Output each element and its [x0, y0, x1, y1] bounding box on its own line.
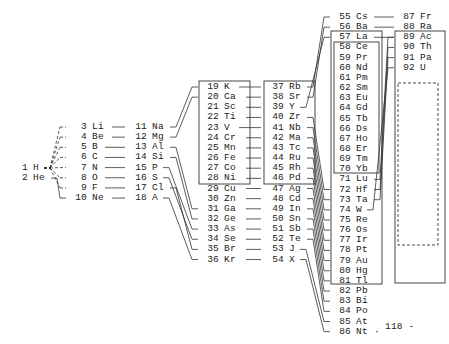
element-35: 35Br	[202, 244, 236, 254]
atomic-number: 18	[130, 193, 147, 203]
atomic-number: 92	[398, 63, 415, 73]
element-symbol: Kr	[224, 255, 236, 265]
element-64: 64Gd	[334, 103, 368, 113]
element-symbol: Ce	[356, 42, 368, 52]
element-symbol: Ag	[289, 184, 301, 194]
atomic-number: 47	[267, 184, 284, 194]
element-22: 22Ti	[202, 112, 236, 122]
atomic-number: 86	[334, 327, 351, 337]
element-symbol: Po	[356, 306, 368, 316]
element-71: 71Lu	[334, 174, 368, 184]
element-symbol: J	[289, 244, 295, 254]
element-2: 2He	[16, 173, 45, 183]
element-symbol: Ne	[92, 193, 104, 203]
atomic-number: 90	[398, 42, 415, 52]
atomic-number: 85	[334, 317, 351, 327]
element-symbol: Gd	[356, 103, 368, 113]
atomic-number: 54	[267, 255, 284, 265]
element-28: 28Ni	[202, 173, 236, 183]
atomic-number: 14	[130, 152, 147, 162]
element-14: 14Si	[130, 152, 164, 162]
element-symbol: Br	[224, 244, 236, 254]
element-36: 36Kr	[202, 255, 236, 265]
element-40: 40Zr	[267, 112, 301, 122]
element-symbol: X	[289, 255, 295, 265]
atomic-number: 2	[16, 173, 28, 183]
element-symbol: U	[420, 63, 426, 73]
atomic-number: 64	[334, 103, 351, 113]
element-54: 54X	[267, 255, 295, 265]
element-53: 53J	[267, 244, 295, 254]
atomic-number: 10	[70, 193, 87, 203]
atomic-number: 84	[334, 306, 351, 316]
atomic-number: 6	[70, 152, 87, 162]
element-symbol: Cu	[224, 184, 236, 194]
element-symbol: Ni	[224, 173, 236, 183]
element-symbol: Tb	[356, 114, 368, 124]
element-symbol: He	[33, 173, 45, 183]
atomic-number: 36	[202, 255, 219, 265]
periodic-system-diagram: 1H2He3Li4Be5B6C7N8O9F10Ne11Na12Mg13Al14S…	[0, 0, 449, 344]
element-78: 78Pt	[334, 245, 368, 255]
element-29: 29Cu	[202, 184, 236, 194]
element-symbol: Pt	[356, 245, 368, 255]
atomic-number: 22	[202, 112, 219, 122]
element-symbol: Th	[420, 42, 432, 52]
element-symbol: Nt	[356, 327, 368, 337]
element-86: 86Nt	[334, 327, 368, 337]
element-10: 10Ne	[70, 193, 104, 203]
element-symbol: Ti	[224, 112, 236, 122]
element-58: 58Ce	[334, 42, 368, 52]
element-symbol: Zr	[289, 112, 301, 122]
atomic-number: 35	[202, 244, 219, 254]
element-46: 46Pd	[267, 173, 301, 183]
element-symbol: Pd	[289, 173, 301, 183]
element-84: 84Po	[334, 306, 368, 316]
element-118-label: 118 -	[385, 322, 415, 332]
element-65: 65Tb	[334, 114, 368, 124]
atomic-number: 58	[334, 42, 351, 52]
element-symbol: At	[356, 317, 368, 327]
element-90: 90Th	[398, 42, 432, 52]
element-symbol: Si	[152, 152, 164, 162]
element-symbol: C	[92, 152, 98, 162]
atomic-number: 40	[267, 112, 284, 122]
atomic-number: 65	[334, 114, 351, 124]
atomic-number: 28	[202, 173, 219, 183]
element-6: 6C	[70, 152, 98, 162]
atomic-number: 29	[202, 184, 219, 194]
atomic-number: 78	[334, 245, 351, 255]
element-85: 85At	[334, 317, 368, 327]
atomic-number: 53	[267, 244, 284, 254]
element-symbol: A	[152, 193, 158, 203]
atomic-number: 71	[334, 174, 351, 184]
element-47: 47Ag	[267, 184, 301, 194]
element-92: 92U	[398, 63, 426, 73]
element-symbol: Lu	[356, 174, 368, 184]
atomic-number: 46	[267, 173, 284, 183]
element-18: 18A	[130, 193, 158, 203]
